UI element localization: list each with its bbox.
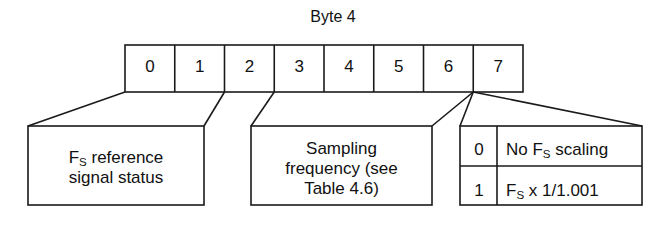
leader-bit7-table-right [473,92,642,126]
bit-cell-5: 5 [374,57,424,77]
scaling-table-desc-1: FS x 1/1.001 [506,181,599,201]
fs-subscript: S [79,156,87,168]
fs-subscript: S [543,148,551,160]
leader-fs-reference-left [28,92,125,126]
bit-cell-0: 0 [125,57,175,77]
bit-cell-1: 1 [175,57,225,77]
page-title: Byte 4 [0,8,666,27]
sampling-freq-line-1: Sampling [306,139,377,158]
fs-subscript: S [516,189,524,201]
sampling-frequency-label: Samplingfrequency (seeTable 4.6) [251,139,432,199]
bit-cell-2: 2 [225,57,275,77]
leader-fs-reference-right [204,92,225,126]
sampling-freq-line-2: frequency (see [285,159,397,178]
bit-cell-7: 7 [473,57,523,77]
bit-cell-6: 6 [424,57,474,77]
sampling-freq-line-3: Table 4.6) [304,179,379,198]
scaling-table-code-0: 0 [461,140,497,160]
scaling-table-code-1: 1 [461,181,497,201]
bit-cell-3: 3 [274,57,324,77]
scaling-table-desc-0: No FS scaling [506,140,608,160]
fs-reference-line-1: FS reference [69,148,164,167]
bit-cell-4: 4 [324,57,374,77]
fs-reference-line-2: signal status [69,168,164,187]
fs-reference-signal-status-label: FS referencesignal status [28,148,204,188]
byte-4-bit-field-diagram: Byte 4 0 1 2 3 4 5 6 7 FS referencesigna… [0,0,666,227]
leader-sampling-freq-left [251,92,274,126]
